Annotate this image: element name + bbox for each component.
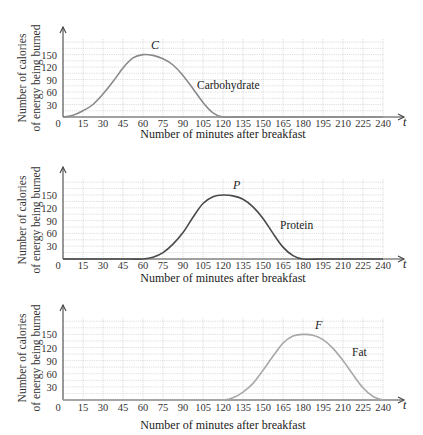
y-tick-label: 120 [41,203,57,214]
carbohydrate-peak-label: C [151,38,160,52]
y-tick-label: 30 [47,100,58,111]
y-tick-label: 60 [47,228,58,239]
x-tick-label: 30 [98,402,109,413]
x-tick-label: 0 [55,260,60,271]
x-tick-label: 105 [195,260,211,271]
x-tick-label: 120 [215,260,231,271]
x-tick-label: 135 [235,402,251,413]
x-tick-label: 240 [375,260,391,271]
x-tick-label: 45 [118,402,129,413]
y-tick-label: 150 [41,50,57,61]
x-tick-label: 105 [195,402,211,413]
x-axis-variable: t [403,398,407,412]
y-tick-label: 90 [47,356,58,367]
carbohydrate-chart: 0153045607590105120135150165180195210225… [16,24,407,141]
y-tick-label: 120 [41,62,57,73]
y-tick-label: 30 [47,382,58,393]
x-tick-label: 60 [138,402,149,413]
y-axis-title-line2: of energy being burned [30,304,43,411]
x-axis-variable: t [403,257,407,271]
x-tick-label: 180 [295,402,311,413]
x-tick-label: 225 [355,260,371,271]
x-tick-label: 60 [138,260,149,271]
protein-peak-label: P [232,178,241,192]
x-axis-title: Number of minutes after breakfast [140,127,306,141]
y-axis-title-line2: of energy being burned [30,166,43,273]
x-tick-label: 165 [275,260,291,271]
x-tick-label: 240 [375,402,391,413]
x-tick-label: 90 [178,402,189,413]
x-tick-label: 15 [78,118,89,129]
x-axis-variable: t [403,115,407,129]
x-tick-label: 15 [78,402,89,413]
x-tick-label: 210 [335,402,351,413]
y-axis-title-line1: Number of calories [16,313,28,402]
x-tick-label: 195 [315,402,331,413]
y-tick-label: 60 [47,369,58,380]
x-tick-label: 225 [355,118,371,129]
x-tick-label: 165 [275,402,291,413]
y-tick-label: 150 [41,190,57,201]
x-axis-title: Number of minutes after breakfast [140,271,306,285]
x-tick-label: 45 [118,118,129,129]
grid [63,318,383,400]
x-tick-label: 0 [55,402,60,413]
y-axis-title-line2: of energy being burned [30,24,43,131]
fat-chart: 0153045607590105120135150165180195210225… [16,304,407,432]
y-tick-label: 30 [47,241,58,252]
carbohydrate-label: Carbohydrate [197,79,260,92]
y-tick-label: 150 [41,329,57,340]
y-tick-label: 60 [47,87,58,98]
x-tick-label: 75 [158,260,169,271]
grid [63,179,383,259]
x-tick-label: 210 [335,118,351,129]
fat-peak-label: F [314,318,323,332]
x-tick-label: 210 [335,260,351,271]
x-tick-label: 30 [98,118,109,129]
x-tick-label: 45 [118,260,129,271]
x-tick-label: 150 [255,260,271,271]
x-tick-label: 30 [98,260,109,271]
y-tick-label: 90 [47,216,58,227]
y-axis-title-line1: Number of calories [16,175,28,264]
y-tick-label: 120 [41,343,57,354]
x-tick-label: 135 [235,260,251,271]
calorie-burn-charts: 0153045607590105120135150165180195210225… [0,0,423,435]
x-tick-label: 150 [255,402,271,413]
x-tick-label: 90 [178,260,189,271]
x-tick-label: 15 [78,260,89,271]
x-tick-label: 195 [315,260,331,271]
grid [63,39,383,117]
protein-chart: 0153045607590105120135150165180195210225… [16,166,407,285]
x-tick-label: 225 [355,402,371,413]
protein-label: Protein [280,219,313,231]
x-axis-title: Number of minutes after breakfast [140,418,306,432]
x-tick-label: 240 [375,118,391,129]
x-tick-label: 195 [315,118,331,129]
y-axis-title-line1: Number of calories [16,33,28,122]
x-tick-label: 0 [55,118,60,129]
x-tick-label: 180 [295,260,311,271]
fat-label: Fat [352,346,368,358]
x-tick-label: 120 [215,402,231,413]
y-tick-label: 90 [47,75,58,86]
x-tick-label: 75 [158,402,169,413]
